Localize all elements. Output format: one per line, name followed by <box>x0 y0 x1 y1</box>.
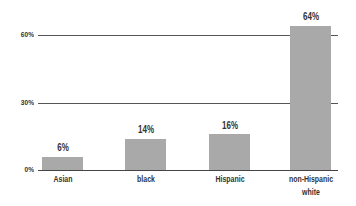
category-label-asian: Asian <box>30 173 96 186</box>
bar-black <box>125 139 166 171</box>
value-label-hispanic: 16% <box>206 120 254 131</box>
value-label-asian: 6% <box>39 142 87 153</box>
value-label-black: 14% <box>122 124 170 135</box>
bar-non-hispanic-white <box>290 26 331 170</box>
bar-chart: 60% 30% 0% 6% 14% 16% 64% Asian black Hi… <box>0 0 356 206</box>
category-label-non-hispanic-white: non-Hispanic white <box>278 173 344 199</box>
y-tick-60: 60% <box>6 30 34 39</box>
value-label-non-hispanic-white: 64% <box>287 11 335 22</box>
x-axis-baseline <box>38 170 338 171</box>
category-label-line2: white <box>278 186 344 199</box>
category-label-line1: non-Hispanic <box>278 173 344 186</box>
bar-hispanic <box>209 134 250 170</box>
category-label-black: black <box>113 173 179 186</box>
y-tick-30: 30% <box>6 98 34 107</box>
bar-asian <box>42 157 83 171</box>
category-label-hispanic: Hispanic <box>197 173 263 186</box>
